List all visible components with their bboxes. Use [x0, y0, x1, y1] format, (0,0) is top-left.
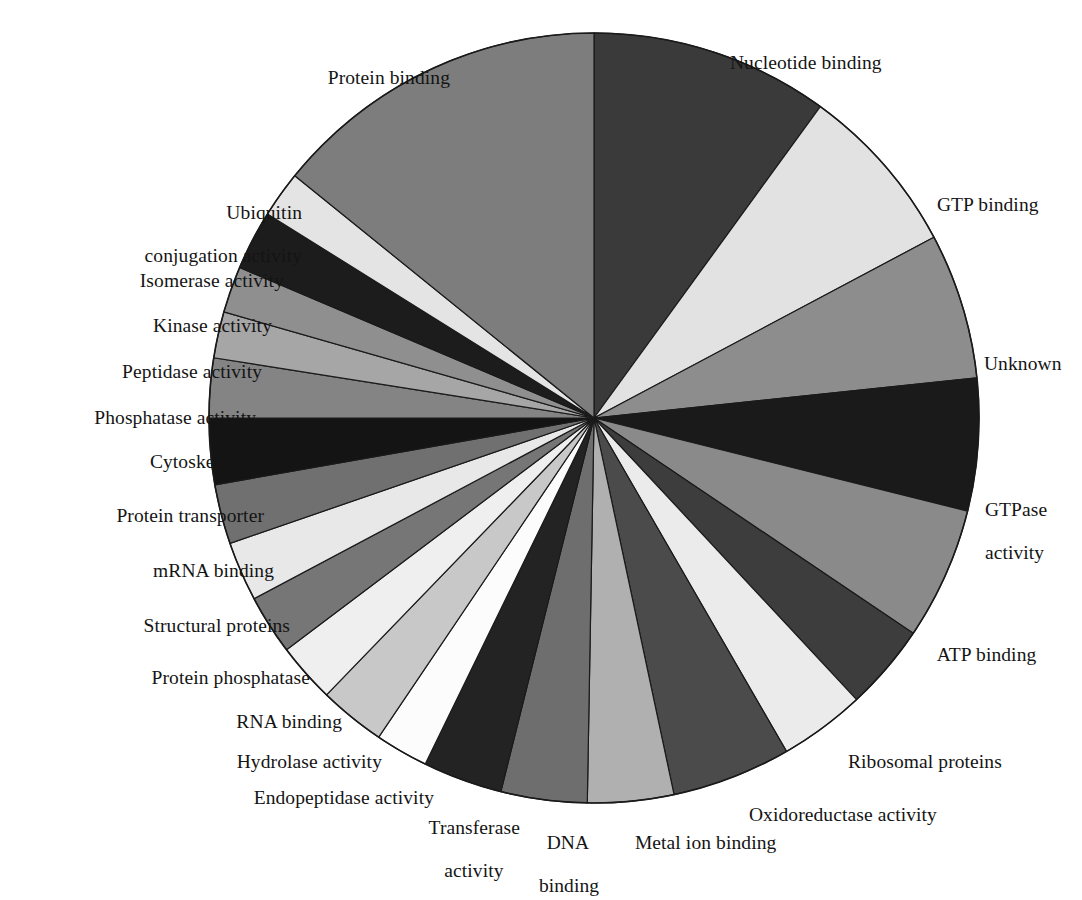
pie-label-text: Structural proteins	[144, 615, 291, 636]
pie-label-text: Ubiquitin	[226, 202, 302, 223]
pie-label-text: RNA binding	[236, 711, 342, 732]
pie-label-text: binding	[539, 875, 599, 896]
pie-label-metal-ion-binding: Metal ion binding	[615, 810, 776, 875]
pie-label-unknown: Unknown	[964, 331, 1062, 396]
pie-label-text: Metal ion binding	[635, 832, 776, 853]
pie-label-text: GTPase	[985, 499, 1047, 520]
pie-label-text: activity	[444, 860, 503, 881]
pie-label-text: GTP binding	[937, 194, 1039, 215]
pie-label-dna-binding: DNA binding	[519, 810, 597, 900]
pie-label-text: mRNA binding	[153, 560, 274, 581]
pie-label-text: conjugation activity	[145, 245, 302, 266]
pie-label-text: Protein binding	[328, 67, 450, 88]
pie-label-gtp-binding: GTP binding	[917, 172, 1039, 237]
pie-label-text: Ribosomal proteins	[848, 751, 1002, 772]
pie-label-text: Kinase activity	[153, 315, 272, 336]
pie-label-text: Unknown	[984, 353, 1062, 374]
pie-label-text: Nucleotide binding	[730, 52, 882, 73]
pie-label-text: DNA	[547, 832, 590, 853]
pie-slice-group	[209, 33, 979, 803]
pie-label-text: Phosphatase activity	[94, 407, 256, 428]
pie-label-atp-binding: ATP binding	[918, 622, 1036, 687]
pie-label-text: ATP binding	[937, 644, 1037, 665]
pie-label-text: Protein phosphatase	[152, 667, 310, 688]
pie-label-text: Protein transporter	[116, 505, 264, 526]
pie-label-nucleotide-binding: Nucleotide binding	[710, 30, 882, 95]
pie-label-ubiquitin-conjugation-activity: Ubiquitin conjugation activity	[125, 180, 302, 289]
pie-label-text: Transferase	[429, 817, 520, 838]
pie-label-text: Cytoskeleton	[150, 451, 254, 472]
pie-label-protein-binding: Protein binding	[308, 45, 450, 110]
pie-label-text: Oxidoreductase activity	[749, 804, 937, 825]
pie-label-text: Peptidase activity	[122, 361, 262, 382]
pie-label-gtpase-activity: GTPase activity	[965, 477, 1047, 586]
pie-label-text: activity	[985, 542, 1044, 563]
